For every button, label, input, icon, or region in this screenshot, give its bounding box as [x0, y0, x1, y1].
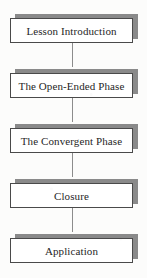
flowchart-node-open-ended-phase[interactable]: The Open-Ended Phase [10, 73, 133, 98]
flowchart-node-closure[interactable]: Closure [10, 183, 133, 208]
node-box: The Convergent Phase [10, 128, 133, 153]
flowchart-node-lesson-introduction[interactable]: Lesson Introduction [10, 18, 133, 43]
node-label: Application [45, 245, 98, 257]
flowchart-diagram: Lesson Introduction The Open-Ended Phase… [0, 0, 147, 278]
node-box: Lesson Introduction [10, 18, 133, 43]
node-box: Application [10, 238, 133, 263]
connector-node4-node5 [72, 208, 73, 232]
flowchart-node-application[interactable]: Application [10, 238, 133, 263]
node-label: Lesson Introduction [26, 25, 116, 37]
node-box: Closure [10, 183, 133, 208]
flowchart-node-convergent-phase[interactable]: The Convergent Phase [10, 128, 133, 153]
node-box: The Open-Ended Phase [10, 73, 133, 98]
connector-node3-node4 [72, 153, 73, 177]
node-label: The Open-Ended Phase [19, 80, 125, 92]
node-label: The Convergent Phase [21, 135, 122, 147]
connector-node1-node2 [72, 43, 73, 67]
connector-node2-node3 [72, 98, 73, 122]
node-label: Closure [54, 190, 89, 202]
